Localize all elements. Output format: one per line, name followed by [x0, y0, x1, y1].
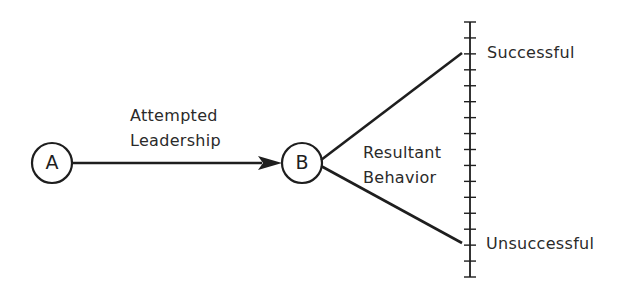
edge-label-line-1: Attempted: [130, 108, 218, 124]
node-b-label: B: [282, 153, 322, 172]
branch-label-line-2: Behavior: [363, 170, 436, 186]
unsuccessful-label: Unsuccessful: [486, 236, 594, 252]
leadership-diagram: A B Attempted Leadership Resultant Behav…: [0, 0, 621, 291]
edge-label-line-2: Leadership: [130, 133, 221, 149]
branch-label-line-1: Resultant: [363, 145, 441, 161]
node-a-label: A: [32, 153, 72, 172]
successful-label: Successful: [487, 45, 575, 61]
